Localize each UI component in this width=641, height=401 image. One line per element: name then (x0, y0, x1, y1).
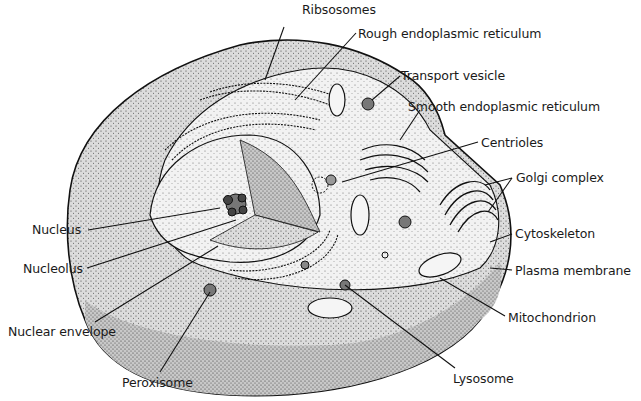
label-golgi-complex: Golgi complex (516, 171, 604, 185)
label-mitochondrion: Mitochondrion (508, 311, 596, 325)
label-peroxisome: Peroxisome (122, 376, 193, 390)
label-nuclear-envelope: Nuclear envelope (8, 325, 116, 339)
label-nucleus: Nucleus (32, 223, 81, 237)
label-transport-vesicle: Transport vesicle (401, 69, 505, 83)
label-lysosome: Lysosome (453, 372, 514, 386)
label-rough-er: Rough endoplasmic reticulum (358, 27, 541, 41)
cell-illustration (0, 0, 641, 401)
label-nucleolus: Nucleolus (23, 262, 83, 276)
label-ribosomes: Ribsosomes (302, 3, 376, 17)
label-smooth-er: Smooth endoplasmic reticulum (408, 100, 600, 114)
label-cytoskeleton: Cytoskeleton (515, 227, 595, 241)
label-centrioles: Centrioles (481, 136, 543, 150)
cell-diagram: Ribsosomes Rough endoplasmic reticulum T… (0, 0, 641, 401)
label-plasma-membrane: Plasma membrane (515, 264, 631, 278)
